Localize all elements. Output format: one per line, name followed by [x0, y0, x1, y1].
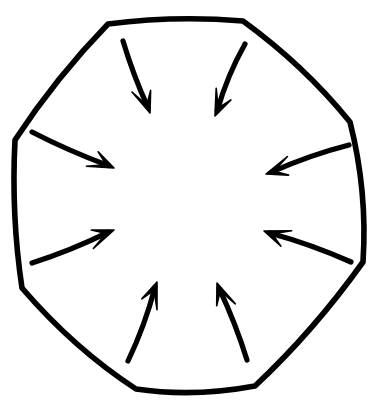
- octagon-arrows-figure: Octagon with eight inward-pointing arrow…: [0, 0, 383, 411]
- figure-background: [0, 0, 383, 411]
- figure-canvas: Octagon with eight inward-pointing arrow…: [0, 0, 383, 411]
